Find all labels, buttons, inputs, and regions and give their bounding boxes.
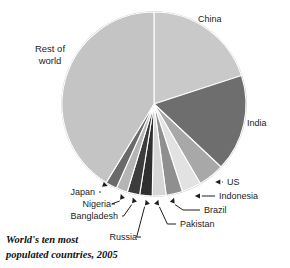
pie-chart-figure: ChinaIndiaUSIndonesiaBrazilPakistanRussi… xyxy=(0,0,290,268)
caption-line-1: World's ten most xyxy=(6,234,79,245)
callout-label-japan: Japan xyxy=(70,187,95,197)
leader-nigeria xyxy=(112,201,120,204)
callout-label-brazil: Brazil xyxy=(204,205,227,215)
arrow-indonesia xyxy=(195,193,200,198)
leader-russia xyxy=(137,207,145,237)
callout-label-nigeria: Nigeria xyxy=(82,199,111,209)
callout-label-us: US xyxy=(227,177,240,187)
arrow-nigeria xyxy=(120,194,125,200)
callout-label-bangladesh: Bangladesh xyxy=(70,211,118,221)
callout-label-india: India xyxy=(247,118,267,128)
leader-pakistan xyxy=(159,207,176,224)
pie-chart-svg: ChinaIndiaUSIndonesiaBrazilPakistanRussi… xyxy=(0,0,290,268)
rest-of-world-label-line2: world xyxy=(38,55,62,66)
callout-label-russia: Russia xyxy=(109,232,137,242)
caption-line-2: populated countries, 2005 xyxy=(5,249,118,260)
callout-label-pakistan: Pakistan xyxy=(180,219,215,229)
arrow-russia xyxy=(145,200,150,206)
rest-of-world-label-line1: Rest of xyxy=(35,43,65,54)
leader-brazil xyxy=(175,205,200,210)
callout-label-china: China xyxy=(198,14,222,24)
leader-bangladesh xyxy=(122,205,132,216)
arrow-bangladesh xyxy=(132,198,137,204)
callout-label-indonesia: Indonesia xyxy=(219,191,258,201)
arrow-brazil xyxy=(170,198,175,204)
pie-slices-group xyxy=(61,11,247,197)
arrow-pakistan xyxy=(154,200,159,206)
arrow-us xyxy=(215,179,220,184)
